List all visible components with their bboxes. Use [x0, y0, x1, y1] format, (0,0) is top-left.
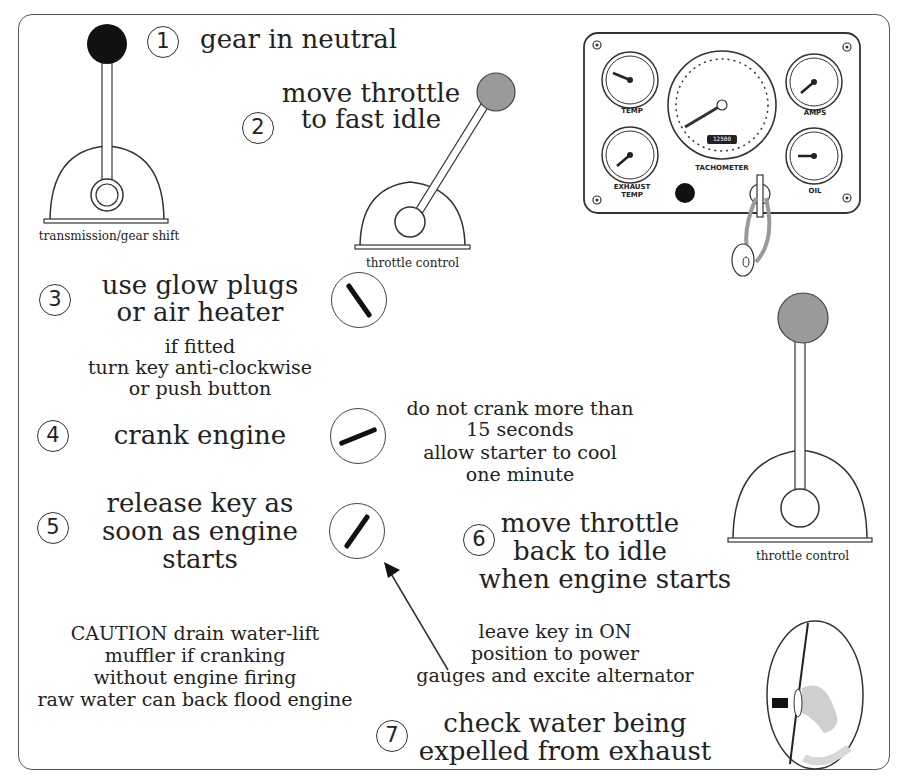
- crank-note-line4: one minute: [395, 465, 645, 484]
- caution-line1: CAUTION drain water-lift: [20, 624, 370, 643]
- step-7-line2: expelled from exhaust: [405, 738, 725, 764]
- throttle-right-caption: throttle control: [740, 550, 865, 562]
- step-5-number: 5: [37, 512, 69, 544]
- crank-note-line1: do not crank more than: [395, 399, 645, 418]
- key-on-note-line3: gauges and excite alternator: [395, 666, 715, 685]
- crank-note-line3: allow starter to cool: [395, 443, 645, 462]
- step-7-number: 7: [376, 720, 408, 752]
- throttle-top-caption: throttle control: [350, 257, 475, 269]
- oil-gauge-label: OIL: [795, 188, 835, 195]
- caution-line3: without engine firing: [20, 668, 370, 687]
- step-7-line1: check water being: [405, 710, 725, 736]
- step-1-text: gear in neutral: [200, 26, 397, 52]
- exhaust-temp-label-2: TEMP: [606, 192, 658, 199]
- step-3-line2: or air heater: [80, 299, 320, 325]
- step-4-number: 4: [37, 420, 69, 452]
- exhaust-outlet-illustration: [764, 618, 874, 778]
- key-position-crank-icon: [330, 408, 386, 464]
- step-6-line2: back to idle: [495, 538, 685, 564]
- gear-shift-caption: transmission/gear shift: [24, 230, 194, 242]
- step-3-sub2: turn key anti-clockwise: [60, 358, 340, 377]
- step-6-line3: when engine starts: [470, 566, 740, 592]
- step-3-sub3: or push button: [60, 379, 340, 398]
- step-5-line1: release key as: [80, 490, 320, 516]
- amps-gauge-label: AMPS: [795, 110, 835, 117]
- step-5-line3: starts: [80, 546, 320, 572]
- step-2-number: 2: [242, 112, 274, 144]
- key-position-on-icon: [329, 503, 385, 559]
- caution-line2: muffler if cranking: [20, 646, 370, 665]
- gear-shift-lever-illustration: [40, 20, 220, 230]
- step-4-text: crank engine: [80, 422, 320, 448]
- throttle-idle-illustration: [725, 290, 885, 550]
- exhaust-temp-label-1: EXHAUST: [606, 184, 658, 191]
- throttle-fast-idle-illustration: [350, 70, 540, 270]
- hour-meter-value: 12500: [707, 136, 737, 142]
- temp-gauge-label: TEMP: [612, 108, 652, 115]
- instrument-panel: [580, 30, 870, 290]
- key-position-glow-icon: [331, 272, 387, 328]
- key-on-note-line1: leave key in ON: [395, 622, 715, 641]
- step-5-line2: soon as engine: [80, 518, 320, 544]
- key-on-note-line2: position to power: [395, 644, 715, 663]
- step-3-line1: use glow plugs: [80, 272, 320, 298]
- caution-line4: raw water can back flood engine: [20, 690, 370, 709]
- step-3-number: 3: [39, 284, 71, 316]
- step-3-sub1: if fitted: [60, 337, 340, 356]
- crank-note-line2: 15 seconds: [395, 420, 645, 439]
- step-1-number: 1: [147, 26, 179, 58]
- step-6-number: 6: [463, 524, 495, 556]
- tachometer-label: TACHOMETER: [682, 165, 762, 172]
- step-6-line1: move throttle: [495, 510, 685, 536]
